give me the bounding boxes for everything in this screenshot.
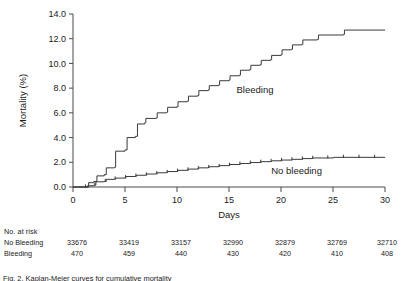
x-axis-title: Days [218, 209, 240, 220]
risk-table: No. at risk No Bleeding 33676 33419 3315… [4, 227, 398, 259]
risk-value: 420 [265, 248, 305, 259]
y-axis-tick-label: 14.0 [48, 9, 66, 19]
risk-value: 33157 [161, 237, 201, 248]
kaplan-meier-figure: 0.02.04.06.08.010.012.014.0051015202530D… [0, 0, 402, 281]
y-axis-tick-label: 10.0 [48, 59, 66, 69]
y-axis-title: Mortality (%) [17, 74, 28, 127]
risk-table-row-bleeding: Bleeding 470 459 440 430 420 410 408 [4, 248, 398, 259]
x-axis-tick-label: 0 [70, 195, 75, 205]
x-axis-tick-label: 10 [172, 195, 182, 205]
curve-label-bleeding: Bleeding [237, 84, 274, 95]
series-line-bleeding [73, 30, 385, 187]
x-axis-tick-label: 20 [276, 195, 286, 205]
y-axis-tick-label: 2.0 [53, 157, 66, 167]
risk-row-label: Bleeding [4, 248, 32, 259]
risk-value: 410 [317, 248, 357, 259]
risk-value: 32769 [317, 237, 357, 248]
figure-caption: Fig. 2. Kaplan-Meier curves for cumulati… [3, 274, 399, 281]
x-axis-tick-label: 25 [328, 195, 338, 205]
curve-label-no-bleeding: No bleeding [271, 165, 322, 176]
risk-value: 32710 [367, 237, 402, 248]
x-axis-tick-label: 5 [122, 195, 127, 205]
risk-table-heading: No. at risk [4, 227, 398, 236]
y-axis-tick-label: 0.0 [53, 182, 66, 192]
x-axis-tick-label: 15 [224, 195, 234, 205]
risk-value: 408 [367, 248, 402, 259]
risk-value: 32879 [265, 237, 305, 248]
risk-value: 33676 [57, 237, 97, 248]
y-axis-tick-label: 4.0 [53, 133, 66, 143]
risk-value: 32990 [213, 237, 253, 248]
y-axis-tick-label: 6.0 [53, 108, 66, 118]
mortality-survival-plot: 0.02.04.06.08.010.012.014.0051015202530D… [0, 0, 402, 228]
risk-value: 33419 [109, 237, 149, 248]
risk-value: 470 [57, 248, 97, 259]
risk-table-row-no-bleeding: No Bleeding 33676 33419 33157 32990 3287… [4, 237, 398, 248]
x-axis-tick-label: 30 [380, 195, 390, 205]
risk-value: 440 [161, 248, 201, 259]
risk-row-label: No Bleeding [4, 237, 43, 248]
y-axis-tick-label: 8.0 [53, 83, 66, 93]
risk-value: 430 [213, 248, 253, 259]
series-line-no-bleeding [73, 157, 385, 187]
risk-value: 459 [109, 248, 149, 259]
y-axis-tick-label: 12.0 [48, 34, 66, 44]
